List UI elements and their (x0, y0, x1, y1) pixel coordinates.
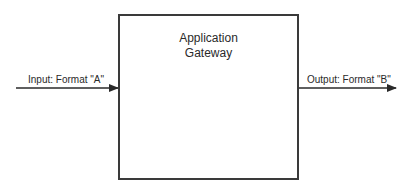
gateway-title: Application Gateway (120, 31, 297, 61)
gateway-title-line2: Gateway (120, 46, 297, 61)
application-gateway-box: Application Gateway (118, 14, 299, 180)
output-label: Output: Format "B" (307, 74, 391, 86)
input-label: Input: Format "A" (28, 74, 104, 86)
gateway-title-line1: Application (120, 31, 297, 46)
application-gateway-diagram: Application Gateway Input: Format "A" Ou… (0, 0, 411, 186)
